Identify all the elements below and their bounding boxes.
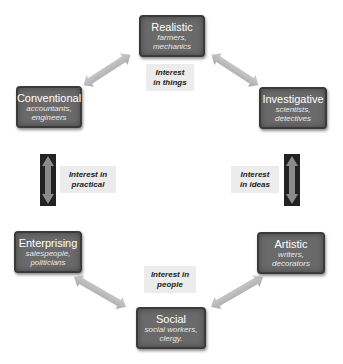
node-examples: accountants, [26,104,71,113]
node-investigative: Investigative scientists, detectives [259,87,327,129]
double-arrow-realistic-conventional [80,49,135,91]
node-enterprising: Enterprising salespeople, politicians [14,231,82,273]
label-interest-in-ideas: Interest in ideas [231,166,279,193]
double-arrow-enterprising-social [71,271,130,313]
label-line: Interest [156,68,185,78]
node-artistic: Artistic writers, decorators [257,232,325,274]
label-line: Interest in [69,170,107,180]
node-examples: mechanics [153,42,191,51]
node-social: Social social workers, clergy. [136,307,206,349]
node-title: Conventional [17,92,81,104]
node-title: Social [156,313,186,325]
node-title: Realistic [151,21,193,33]
node-examples: social workers, [145,325,198,334]
label-interest-in-things: Interest in things [146,64,194,91]
label-line: Interest [241,170,270,180]
node-examples: decorators [272,259,310,268]
double-arrow-realistic-investigative [208,49,263,91]
node-examples: politicians [30,258,65,267]
node-title: Investigative [262,93,323,105]
node-realistic: Realistic farmers, mechanics [139,15,205,57]
label-line: in things [153,78,186,88]
node-examples: scientists, [275,105,310,114]
label-line: Interest in [151,270,189,280]
node-title: Artistic [275,238,308,250]
label-interest-in-practical: Interest in practical [60,166,116,193]
double-arrow-investigative-artistic [284,154,300,206]
node-examples: salespeople, [26,249,71,258]
label-interest-in-people: Interest in people [144,266,196,293]
node-examples: detectives [275,114,311,123]
node-examples: clergy. [160,334,183,343]
node-title: Enterprising [19,237,78,249]
label-line: in ideas [240,180,270,190]
node-examples: writers, [278,250,304,259]
label-line: practical [72,180,105,190]
double-arrow-artistic-social [208,271,267,313]
double-arrow-conventional-enterprising [40,154,56,206]
node-examples: engineers [31,113,66,122]
node-examples: farmers, [157,33,186,42]
label-line: people [157,280,183,290]
node-conventional: Conventional accountants, engineers [16,86,82,128]
